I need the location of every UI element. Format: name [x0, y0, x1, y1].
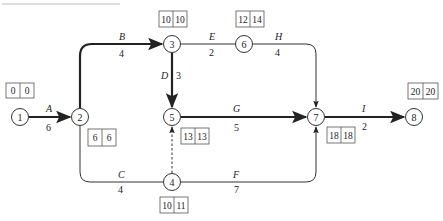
node-2: 2: [72, 109, 89, 126]
activity-G-name: G: [233, 103, 240, 114]
activity-E: E 2: [181, 31, 235, 58]
activity-D-duration: 3: [176, 70, 181, 81]
activity-B-name: B: [119, 31, 125, 42]
activity-C-name: C: [118, 169, 125, 180]
svg-text:6: 6: [93, 133, 98, 143]
activity-E-name: E: [208, 31, 215, 42]
node-3: 3: [164, 36, 181, 53]
svg-text:3: 3: [170, 39, 175, 50]
activity-D: D 3: [160, 53, 181, 107]
svg-text:14: 14: [252, 15, 262, 25]
svg-text:18: 18: [329, 131, 339, 141]
svg-text:4: 4: [170, 177, 175, 188]
svg-text:6: 6: [242, 39, 247, 50]
time-box-node-1: 0 0: [6, 83, 34, 98]
svg-text:0: 0: [11, 86, 16, 96]
svg-text:10: 10: [162, 201, 172, 211]
svg-text:20: 20: [426, 87, 436, 97]
activity-D-name: D: [160, 70, 169, 81]
svg-text:11: 11: [176, 201, 185, 211]
node-1: 1: [12, 109, 29, 126]
time-box-node-4: 10 11: [160, 197, 188, 213]
activity-F-name: F: [232, 169, 240, 180]
node-5: 5: [164, 109, 181, 126]
activity-B-duration: 4: [119, 48, 124, 59]
time-box-node-3: 10 10: [159, 11, 187, 27]
svg-text:1: 1: [18, 112, 23, 123]
svg-text:20: 20: [411, 87, 421, 97]
time-box-node-8: 20 20: [408, 83, 438, 99]
activity-H-duration: 4: [275, 47, 280, 58]
svg-text:0: 0: [25, 86, 30, 96]
activity-I-duration: 2: [362, 121, 367, 132]
svg-text:8: 8: [412, 112, 417, 123]
activity-G-duration: 5: [234, 122, 239, 133]
activity-B: B 4: [80, 31, 162, 108]
network-diagram: A 6 B 4 C 4 D 3 E 2 H 4 G 5 F 7: [0, 0, 443, 221]
activity-H-name: H: [274, 31, 283, 42]
svg-text:10: 10: [175, 15, 185, 25]
svg-text:13: 13: [197, 132, 207, 142]
activity-A-name: A: [45, 103, 53, 114]
time-box-node-7: 18 18: [327, 127, 355, 143]
node-8: 8: [406, 109, 423, 126]
svg-text:18: 18: [343, 131, 353, 141]
svg-text:5: 5: [170, 112, 175, 123]
time-box-node-6: 12 14: [236, 11, 264, 27]
node-6: 6: [236, 36, 253, 53]
activity-A-duration: 6: [46, 122, 51, 133]
activity-F-duration: 7: [234, 184, 239, 195]
svg-text:2: 2: [78, 112, 83, 123]
time-box-node-5: 13 13: [181, 128, 209, 144]
activity-A: A 6: [29, 103, 70, 133]
activity-H: H 4: [253, 31, 316, 107]
svg-text:12: 12: [238, 15, 248, 25]
activity-E-duration: 2: [209, 47, 214, 58]
svg-text:10: 10: [161, 15, 171, 25]
node-7: 7: [308, 109, 325, 126]
svg-text:7: 7: [314, 112, 319, 123]
svg-text:13: 13: [183, 132, 193, 142]
activity-I-name: I: [361, 103, 366, 114]
node-4: 4: [164, 174, 181, 191]
time-box-node-2: 6 6: [88, 129, 116, 146]
activity-C-duration: 4: [118, 184, 123, 195]
svg-text:6: 6: [107, 133, 112, 143]
